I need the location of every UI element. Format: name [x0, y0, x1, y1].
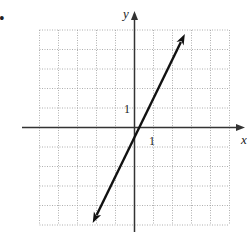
plotted-line [93, 34, 185, 223]
x-axis [22, 124, 245, 131]
y-axis-label: y [121, 6, 129, 21]
y-tick-label: 1 [124, 102, 130, 116]
x-axis-arrow-icon [236, 124, 245, 131]
coordinate-plane: y x 1 1 • [0, 0, 247, 234]
problem-bullet: • [0, 10, 5, 27]
x-tick-label: 1 [149, 134, 155, 148]
y-axis [131, 11, 138, 232]
x-axis-label: x [240, 132, 247, 147]
y-axis-arrow-icon [131, 11, 138, 20]
